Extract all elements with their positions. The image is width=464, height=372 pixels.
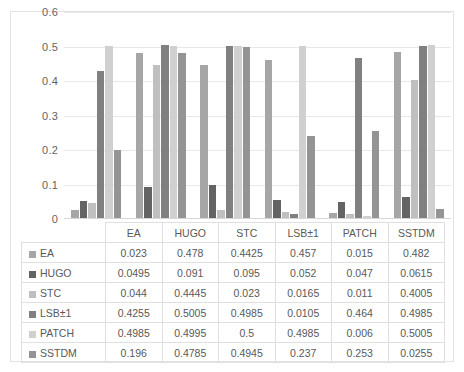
legend-swatch-icon [29,331,36,338]
legend-swatch-icon [29,291,36,298]
table-cell: 0.0165 [275,283,332,303]
bar [88,203,96,218]
table-row: STC0.0440.44450.0230.01650.0110.4005 [22,283,445,303]
bar [200,65,208,218]
table-header-row: EAHUGOSTCLSB±1PATCHSSTDM [22,223,445,243]
table-cell: 0.253 [332,343,389,363]
table-column-header: SSTDM [388,223,445,243]
legend-label: EA [40,247,54,259]
table-column-header: EA [106,223,163,243]
table-cell: 0.0495 [106,263,163,283]
bar [299,46,307,218]
table-cell: 0.5 [219,323,276,343]
legend-label: PATCH [40,327,74,339]
bar-group [193,12,258,218]
bar-group [64,12,129,218]
bar [80,201,88,218]
table-cell: 0.047 [332,263,389,283]
table-cell: 0.4005 [388,283,445,303]
plot-canvas [64,12,453,219]
bar [307,136,315,218]
table-cell: 0.4945 [219,343,276,363]
table-column-header: PATCH [332,223,389,243]
bar [402,197,410,218]
legend-label: SSTDM [40,347,77,359]
bar [136,53,144,218]
table-row: LSB±10.42550.50050.49850.01050.4640.4985 [22,303,445,323]
table-body: EA0.0230.4780.44250.4570.0150.482HUGO0.0… [22,243,445,363]
table-cell: 0.5005 [388,323,445,343]
table-cell: 0.4985 [388,303,445,323]
data-table-container: EAHUGOSTCLSB±1PATCHSSTDM EA0.0230.4780.4… [21,222,445,363]
bar [71,210,79,218]
table-cell: 0.196 [106,343,163,363]
table-row-header: STC [22,283,106,303]
bar-group [387,12,452,218]
bar-group [129,12,194,218]
table-cell: 0.5005 [162,303,219,323]
bar [153,65,161,218]
table-row: PATCH0.49850.49950.50.49850.0060.5005 [22,323,445,343]
bar-group [322,12,387,218]
table-cell: 0.482 [388,243,445,263]
bar [411,80,419,218]
table-column-header: HUGO [162,223,219,243]
bar [226,46,234,218]
table-cell: 0.4985 [106,323,163,343]
legend-label: STC [40,287,61,299]
legend-label: HUGO [40,267,72,279]
legend-swatch-icon [29,351,36,358]
table-cell: 0.4985 [275,323,332,343]
legend-swatch-icon [29,311,36,318]
table-cell: 0.4785 [162,343,219,363]
bar [161,45,169,218]
table-cell: 0.095 [219,263,276,283]
bar [355,58,363,218]
data-table: EAHUGOSTCLSB±1PATCHSSTDM EA0.0230.4780.4… [21,222,445,363]
legend-swatch-icon [29,251,36,258]
table-column-header: LSB±1 [275,223,332,243]
bar [97,71,105,218]
table-row-header: LSB±1 [22,303,106,323]
table-column-header: STC [219,223,276,243]
bar [265,60,273,218]
bar [243,47,251,218]
table-row: HUGO0.04950.0910.0950.0520.0470.0615 [22,263,445,283]
bar [178,53,186,218]
plot-area: 0.60.50.40.30.20.10 [11,12,453,219]
table-cell: 0.457 [275,243,332,263]
table-cell: 0.044 [106,283,163,303]
bar [436,209,444,218]
bar [217,210,225,218]
legend-swatch-icon [29,271,36,278]
table-cell: 0.015 [332,243,389,263]
table-row-header: HUGO [22,263,106,283]
axis-baseline [64,218,451,219]
table-row: EA0.0230.4780.44250.4570.0150.482 [22,243,445,263]
y-axis-tick-label: 0.4 [42,76,58,87]
bar [394,52,402,218]
legend-label: LSB±1 [40,307,71,319]
table-cell: 0.006 [332,323,389,343]
table-cell: 0.464 [332,303,389,323]
bar [372,131,380,218]
table-cell: 0.4425 [219,243,276,263]
y-axis-tick-label: 0.3 [42,110,58,121]
chart-container: 0.60.50.40.30.20.10 EAHUGOSTCLSB±1PATCHS… [10,11,454,362]
table-row-header: SSTDM [22,343,106,363]
y-axis-tick-label: 0.5 [42,41,58,52]
bar [114,150,122,218]
y-axis-tick-label: 0.1 [42,179,58,190]
bar [338,202,346,218]
table-cell: 0.4445 [162,283,219,303]
table-cell: 0.237 [275,343,332,363]
table-cell: 0.4255 [106,303,163,323]
table-cell: 0.023 [219,283,276,303]
table-cell: 0.0615 [388,263,445,283]
table-cell: 0.0255 [388,343,445,363]
table-cell: 0.478 [162,243,219,263]
table-row: SSTDM0.1960.47850.49450.2370.2530.0255 [22,343,445,363]
y-axis-tick-label: 0.6 [42,7,58,18]
bar [209,185,217,218]
bar [144,187,152,218]
